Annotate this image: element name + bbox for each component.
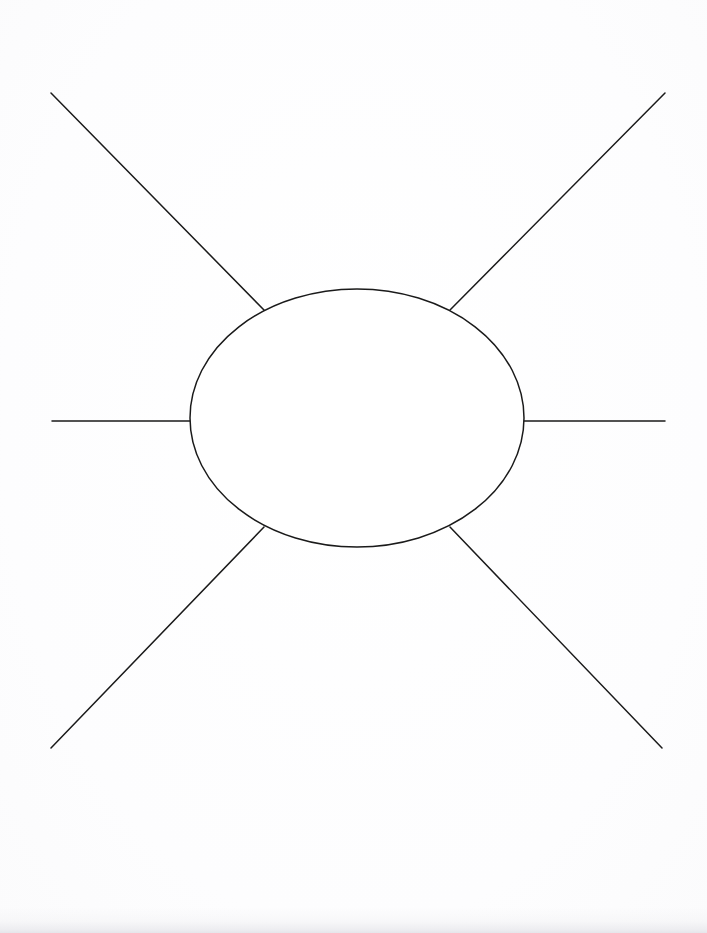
spoke-southwest[interactable] [51, 527, 264, 748]
graphic-organizer-diagram [0, 0, 707, 933]
worksheet-page [0, 0, 707, 933]
spoke-northwest[interactable] [51, 93, 264, 310]
spoke-northeast[interactable] [450, 93, 665, 310]
spoke-southeast[interactable] [450, 527, 662, 748]
central-oval[interactable] [190, 289, 524, 547]
